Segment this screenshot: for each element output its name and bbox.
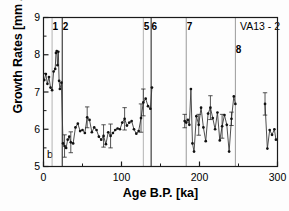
data-point <box>57 50 60 53</box>
data-point <box>133 128 136 131</box>
data-point <box>234 103 237 106</box>
data-point <box>60 81 63 84</box>
data-point <box>268 129 271 132</box>
data-point <box>86 116 89 119</box>
data-point <box>230 117 233 120</box>
data-point <box>218 139 221 142</box>
data-point <box>88 119 91 122</box>
data-point <box>56 64 59 67</box>
data-point <box>225 123 228 126</box>
data-point <box>207 112 210 115</box>
data-point <box>119 128 122 131</box>
data-point <box>65 147 68 150</box>
data-point <box>93 126 96 129</box>
data-point <box>72 142 75 145</box>
data-point <box>121 121 124 124</box>
data-point <box>140 117 143 120</box>
plot-area <box>0 0 289 211</box>
data-point <box>69 141 72 144</box>
data-point <box>149 107 152 110</box>
data-point <box>116 127 119 130</box>
data-point <box>109 135 112 138</box>
data-point <box>102 135 105 138</box>
data-point <box>190 88 193 91</box>
data-point <box>186 119 189 122</box>
data-point <box>112 132 115 135</box>
data-point <box>275 138 278 141</box>
data-point <box>58 79 61 82</box>
data-point <box>83 132 86 135</box>
data-point <box>49 86 52 89</box>
data-point <box>221 125 224 128</box>
data-point <box>193 150 196 153</box>
data-point <box>74 126 77 129</box>
data-point <box>105 143 108 146</box>
data-point <box>130 120 133 123</box>
data-point <box>54 68 57 71</box>
data-point <box>100 138 103 141</box>
data-point <box>232 95 235 98</box>
data-point <box>216 111 219 114</box>
data-line-segment-2 <box>265 104 276 149</box>
data-point <box>81 129 84 132</box>
data-point <box>202 126 205 129</box>
data-point <box>214 128 217 131</box>
data-point <box>264 103 267 106</box>
data-point <box>107 131 110 134</box>
data-point <box>197 123 200 126</box>
data-point <box>95 129 98 132</box>
data-point <box>76 122 79 125</box>
growth-rate-chart: Growth Rates [mm / Ma] Age B.P. [ka] 567… <box>0 0 289 211</box>
data-point <box>52 70 55 73</box>
data-point <box>135 132 138 135</box>
data-point <box>68 135 71 138</box>
data-point <box>66 138 69 141</box>
data-point <box>48 76 51 79</box>
data-point <box>114 129 117 132</box>
data-point <box>228 150 231 153</box>
data-point <box>191 142 194 145</box>
data-point <box>123 117 126 120</box>
data-point <box>204 140 207 143</box>
data-point <box>79 130 82 133</box>
data-point <box>195 115 198 118</box>
data-point <box>200 106 203 109</box>
data-point <box>211 117 214 120</box>
data-point <box>59 88 62 91</box>
data-point <box>137 130 140 133</box>
axes-frame <box>44 18 278 167</box>
data-point <box>46 82 49 85</box>
data-point <box>44 73 47 76</box>
data-point <box>151 86 154 89</box>
data-point <box>91 131 94 134</box>
data-point <box>43 79 46 82</box>
data-point <box>209 106 212 109</box>
data-point <box>147 105 150 108</box>
data-point <box>266 147 269 150</box>
data-point <box>185 121 188 124</box>
data-point <box>273 128 276 131</box>
data-point <box>126 124 129 127</box>
data-point <box>271 133 274 136</box>
data-point <box>223 114 226 117</box>
data-point <box>98 135 101 138</box>
data-point <box>188 123 191 126</box>
data-point <box>128 121 131 124</box>
data-point <box>62 142 65 145</box>
data-point <box>51 89 54 92</box>
data-point <box>142 101 145 104</box>
data-point <box>144 97 147 100</box>
